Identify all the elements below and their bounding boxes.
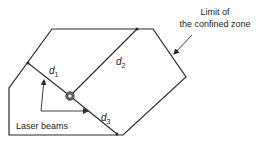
d2-label: d2 bbox=[116, 56, 126, 69]
beam-d3-line bbox=[70, 96, 117, 134]
confined-zone-diagram: Limit of the confined zone d1 d2 d3 Lase… bbox=[0, 0, 259, 143]
beam-d2-line bbox=[70, 29, 137, 96]
laser-source-icon bbox=[66, 92, 74, 100]
limit-pointer-arrow bbox=[174, 35, 192, 54]
d3-label: d3 bbox=[101, 112, 111, 125]
limit-label-line2: the confined zone bbox=[179, 19, 250, 29]
confined-zone-boundary bbox=[9, 29, 186, 135]
d1-label: d1 bbox=[49, 65, 59, 78]
limit-label-line1: Limit of bbox=[200, 7, 230, 17]
beams-pointer-vertical bbox=[41, 80, 44, 111]
laser-beams-label: Laser beams bbox=[16, 121, 69, 131]
